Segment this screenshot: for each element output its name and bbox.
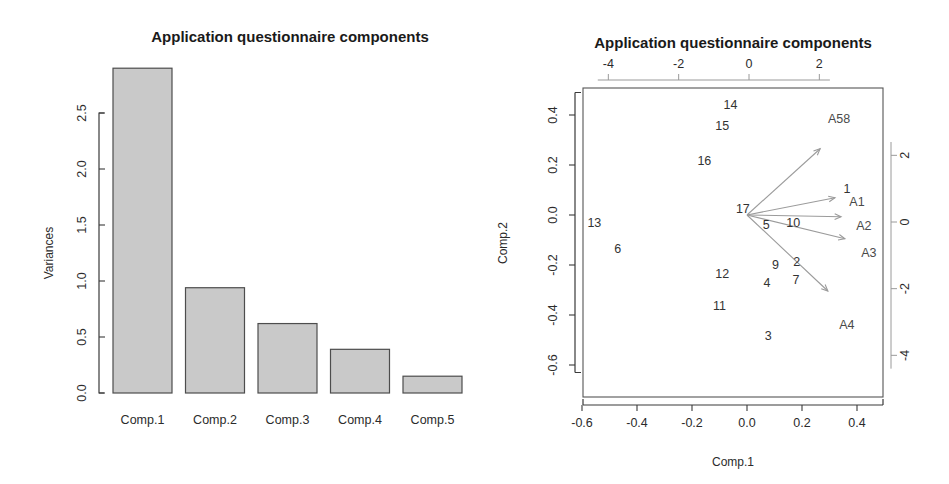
biplot-point-label: 13 bbox=[587, 216, 601, 230]
biplot-top-tick-label: -2 bbox=[673, 57, 684, 71]
scree-category-label: Comp.4 bbox=[338, 413, 382, 427]
scree-plot-title: Application questionnaire components bbox=[151, 28, 429, 45]
biplot-point-label: 15 bbox=[715, 119, 729, 133]
biplot-bottom-axis: -0.6-0.4-0.20.00.20.4 bbox=[571, 399, 883, 430]
biplot-left-axis: 0.40.20.0-0.2-0.4-0.6 bbox=[546, 93, 581, 376]
biplot-vector-label-group: A58A1A2A3A4 bbox=[828, 112, 877, 332]
biplot-left-tick-label: 0.4 bbox=[546, 106, 560, 123]
biplot-left-tick-label: -0.6 bbox=[546, 354, 560, 376]
biplot-top-axis: -4-202 bbox=[598, 57, 830, 80]
scree-bar bbox=[113, 68, 172, 393]
biplot-right-tick-label: -4 bbox=[898, 350, 912, 361]
biplot-top-tick-label: -4 bbox=[603, 57, 614, 71]
biplot-right-axis: 20-2-4 bbox=[891, 142, 912, 369]
scree-bar bbox=[258, 324, 317, 393]
biplot-point-label: 6 bbox=[614, 242, 621, 256]
scree-ytick-2: 1.0 bbox=[75, 272, 89, 289]
biplot-point-label: 17 bbox=[736, 202, 750, 216]
scree-category-label: Comp.3 bbox=[266, 413, 310, 427]
scree-ytick-4: 2.0 bbox=[75, 160, 89, 177]
scree-bar bbox=[403, 376, 462, 393]
scree-bar-group bbox=[113, 68, 462, 393]
biplot-vector-arrow bbox=[747, 198, 835, 215]
scree-category-label: Comp.1 bbox=[121, 413, 165, 427]
biplot-title: Application questionnaire components bbox=[594, 34, 872, 51]
biplot-point-label: 10 bbox=[786, 216, 800, 230]
biplot-point-label: 7 bbox=[792, 273, 799, 287]
biplot-left-tick-label: 0.2 bbox=[546, 156, 560, 173]
biplot-left-axis-line bbox=[575, 93, 581, 373]
biplot-left-tick-label: -0.4 bbox=[546, 304, 560, 326]
biplot-vector-label: A58 bbox=[828, 112, 850, 126]
biplot-bottom-axis-line bbox=[583, 399, 883, 405]
biplot-right-tick-label: 2 bbox=[898, 152, 912, 159]
scree-ytick-5: 2.5 bbox=[75, 104, 89, 121]
scree-bar bbox=[331, 349, 390, 393]
scree-y-axis: 0.0 0.5 1.0 1.5 2.0 2.5 bbox=[75, 104, 105, 401]
biplot-right-tick-label: -2 bbox=[898, 283, 912, 294]
scree-plot-figure: Application questionnaire components 0.0… bbox=[0, 0, 475, 484]
biplot-point-label: 1 bbox=[844, 182, 851, 196]
scree-category-label: Comp.2 bbox=[193, 413, 237, 427]
biplot-bottom-tick-label: 0.2 bbox=[793, 416, 810, 430]
biplot-figure: Application questionnaire components -4-… bbox=[475, 0, 949, 484]
biplot-point-label: 3 bbox=[765, 329, 772, 343]
biplot-point-label: 14 bbox=[724, 98, 738, 112]
scree-ytick-3: 1.5 bbox=[75, 216, 89, 233]
scree-y-axis-label: Variances bbox=[42, 227, 56, 279]
biplot-y-axis-label: Comp.2 bbox=[496, 222, 510, 264]
biplot-vector-label: A1 bbox=[849, 195, 864, 209]
biplot-bottom-tick-label: 0.4 bbox=[848, 416, 865, 430]
biplot-panel: Application questionnaire components -4-… bbox=[475, 0, 949, 484]
biplot-bottom-tick-label: -0.4 bbox=[626, 416, 648, 430]
biplot-point-label: 2 bbox=[793, 255, 800, 269]
biplot-bottom-tick-label: -0.2 bbox=[681, 416, 703, 430]
biplot-top-tick-label: 0 bbox=[746, 57, 753, 71]
scree-category-label: Comp.5 bbox=[411, 413, 455, 427]
biplot-bottom-tick-label: 0.0 bbox=[738, 416, 755, 430]
biplot-point-label: 4 bbox=[764, 276, 771, 290]
biplot-point-label-group: 141516171361211510924731 bbox=[587, 98, 850, 343]
biplot-x-axis-label: Comp.1 bbox=[712, 455, 754, 469]
biplot-point-label: 9 bbox=[772, 258, 779, 272]
scree-ytick-0: 0.0 bbox=[75, 384, 89, 401]
biplot-vector-label: A3 bbox=[861, 246, 876, 260]
biplot-point-label: 12 bbox=[715, 267, 729, 281]
biplot-point-label: 16 bbox=[697, 154, 711, 168]
biplot-vector-label: A2 bbox=[856, 219, 871, 233]
biplot-point-label: 11 bbox=[713, 299, 726, 313]
biplot-top-tick-label: 2 bbox=[816, 57, 823, 71]
scree-bar bbox=[186, 288, 245, 393]
biplot-left-tick-label: -0.2 bbox=[546, 254, 560, 276]
biplot-vector-arrow bbox=[747, 149, 820, 215]
biplot-left-tick-label: 0.0 bbox=[546, 206, 560, 223]
biplot-frame bbox=[583, 88, 883, 397]
biplot-bottom-tick-label: -0.6 bbox=[571, 416, 593, 430]
biplot-vector-label: A4 bbox=[839, 318, 854, 332]
biplot-point-label: 5 bbox=[763, 218, 770, 232]
scree-plot-panel: Application questionnaire components 0.0… bbox=[0, 0, 475, 484]
scree-ytick-1: 0.5 bbox=[75, 328, 89, 345]
biplot-right-tick-label: 0 bbox=[898, 218, 912, 225]
scree-category-labels: Comp.1Comp.2Comp.3Comp.4Comp.5 bbox=[121, 413, 455, 427]
